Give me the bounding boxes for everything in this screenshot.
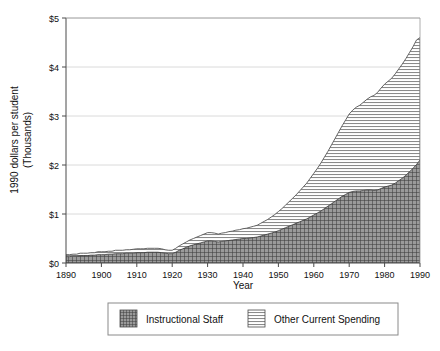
x-tick-label-2: 1910 (127, 270, 147, 280)
y-axis-title-line1: 1990 dollars per student (9, 86, 20, 194)
area-chart: $0$1$2$3$4$5 189019001910192019301940195… (0, 0, 440, 351)
y-axis-ticks: $0$1$2$3$4$5 (49, 14, 66, 269)
x-axis-title: Year (233, 280, 254, 291)
x-tick-label-4: 1930 (198, 270, 218, 280)
y-tick-label-5: $5 (49, 14, 59, 24)
x-tick-label-6: 1950 (268, 270, 288, 280)
x-tick-label-1: 1900 (91, 270, 111, 280)
y-tick-label-0: $0 (49, 259, 59, 269)
x-tick-label-10: 1990 (410, 270, 430, 280)
y-tick-label-1: $1 (49, 210, 59, 220)
x-tick-label-9: 1980 (375, 270, 395, 280)
chart-figure: $0$1$2$3$4$5 189019001910192019301940195… (0, 0, 440, 351)
x-tick-label-5: 1940 (233, 270, 253, 280)
y-axis-title: 1990 dollars per student (Thousands) (9, 86, 33, 194)
x-tick-label-3: 1920 (162, 270, 182, 280)
y-tick-label-2: $2 (49, 161, 59, 171)
legend: Instructional Staff Other Current Spendi… (108, 303, 398, 335)
x-tick-label-7: 1960 (304, 270, 324, 280)
y-tick-label-3: $3 (49, 112, 59, 122)
y-axis-title-line2: (Thousands) (22, 112, 33, 168)
x-tick-label-8: 1970 (339, 270, 359, 280)
y-tick-label-4: $4 (49, 63, 59, 73)
x-tick-label-0: 1890 (56, 270, 76, 280)
legend-swatch-hlines-icon (248, 310, 265, 327)
legend-label-instructional-staff: Instructional Staff (146, 314, 223, 325)
legend-label-other-current-spending: Other Current Spending (274, 314, 380, 325)
legend-swatch-crosshatch-icon (120, 310, 137, 327)
x-axis-ticks: 1890190019101920193019401950196019701980… (56, 263, 430, 280)
